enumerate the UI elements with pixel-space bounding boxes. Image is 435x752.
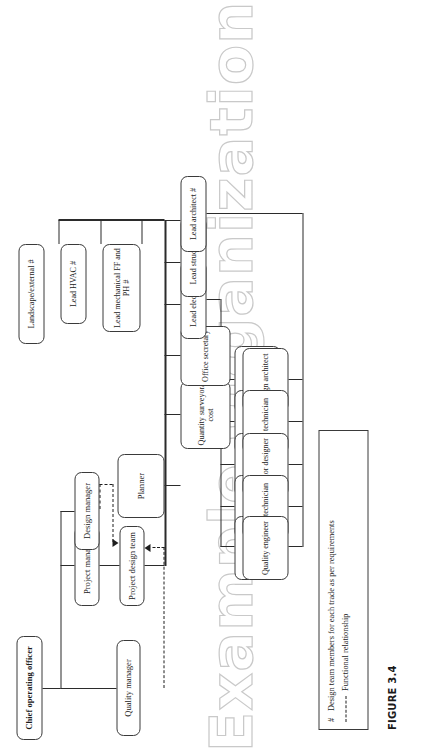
connector-pdt-down — [144, 565, 164, 566]
node-chief-operating-officer[interactable]: Chief operating officer — [16, 636, 42, 740]
node-quality-manager[interactable]: Quality manager — [116, 640, 140, 736]
org-chart-canvas: Example Organization Chart Chief operati… — [0, 0, 435, 752]
connector-elec-4 — [220, 506, 234, 507]
connector-to-quality-manager — [60, 688, 116, 689]
connector-arch-5 — [288, 546, 302, 547]
legend-row-dashed: Functional relationship — [338, 438, 352, 722]
connector-pm-to-pdt — [99, 565, 119, 566]
connector-to-office-secretary — [164, 355, 180, 356]
arrow-quality-manager-to-pdt — [144, 544, 150, 552]
dashed-design-manager-h2 — [112, 484, 113, 542]
legend-hash-text: Design team members for each trade as pe… — [324, 520, 338, 711]
connector-spine-to-mechanical — [141, 220, 142, 244]
connector-architect-down — [206, 213, 302, 214]
node-quantity-surveyor[interactable]: Quantity surveyor/ cost — [180, 381, 230, 449]
connector-spine-to-landscape — [58, 220, 59, 244]
dashed-line-icon — [345, 696, 346, 722]
node-design-manager[interactable]: Design manager — [74, 472, 99, 550]
dashed-quality-manager-h — [163, 547, 164, 688]
connector-arch-3 — [288, 464, 302, 465]
connector-lead-spine — [58, 219, 164, 221]
connector-coo-bus — [60, 511, 61, 689]
connector-coo-down — [42, 688, 60, 689]
connector-elec-3 — [220, 464, 234, 465]
node-planner[interactable]: Planner — [117, 454, 164, 518]
legend-hash-symbol: # — [324, 711, 338, 722]
connector-bus-to-architect — [164, 220, 180, 221]
connector-arch-4 — [288, 506, 302, 507]
node-lead-mechanical[interactable]: Lead mechanical FF and PH # — [102, 244, 140, 332]
connector-arch-2 — [288, 421, 302, 422]
node-lead-architect[interactable]: Lead architect # — [180, 176, 206, 252]
connector-elec-5 — [220, 546, 234, 547]
connector-bus-to-electrical — [164, 304, 180, 305]
connector-architect-bus — [302, 213, 303, 547]
connector-spine-to-hvac — [100, 220, 101, 244]
connector-main-bus — [164, 220, 166, 566]
dashed-quality-manager-v — [152, 547, 164, 548]
node-architect-quality-engineer[interactable]: Quality engineer — [242, 516, 288, 580]
node-landscape-external[interactable]: Landscape/external # — [18, 244, 44, 344]
legend-row-hash: # Design team members for each trade as … — [324, 438, 338, 722]
arrow-design-manager-to-pdt — [112, 539, 118, 547]
connector-to-planner — [164, 485, 180, 486]
figure-caption: FIGURE 3.4 — [386, 665, 397, 730]
legend-dash-text: Functional relationship — [338, 614, 352, 691]
connector-to-design-manager — [60, 511, 74, 512]
connector-to-project-manager — [60, 565, 74, 566]
node-project-design-team[interactable]: Project design team — [119, 526, 144, 606]
connector-electrical-down — [206, 299, 220, 300]
figure-page: Example Organization Chart Chief operati… — [0, 0, 435, 752]
connector-bus-to-structural — [164, 262, 180, 263]
dashed-design-manager-v — [99, 484, 112, 485]
connector-to-quantity-surveyor — [164, 414, 180, 415]
legend-box: # Design team members for each trade as … — [318, 430, 368, 730]
connector-arch-1 — [288, 379, 302, 380]
node-lead-hvac[interactable]: Lead HVAC # — [60, 244, 86, 324]
